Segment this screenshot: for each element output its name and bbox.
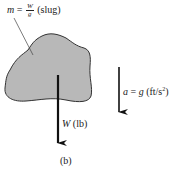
acceleration-symbol: a <box>123 86 128 97</box>
acceleration-equals: = <box>131 86 137 97</box>
acceleration-unit-suffix: ) <box>165 86 168 97</box>
figure-caption: (b) <box>60 156 72 166</box>
weight-label: W (lb) <box>62 119 87 129</box>
mass-fraction: W g <box>26 3 34 18</box>
rigid-body-shape <box>5 34 92 102</box>
weight-unit: (lb) <box>73 118 87 129</box>
mass-unit: (slug) <box>37 4 60 15</box>
mass-symbol: m <box>7 4 14 15</box>
mass-label: m = W g (slug) <box>7 3 61 18</box>
mass-equals: = <box>17 4 23 15</box>
acceleration-value: g <box>139 86 144 97</box>
mass-fraction-denominator: g <box>26 11 34 18</box>
weight-symbol: W <box>62 118 70 129</box>
mass-leader-line <box>14 18 33 55</box>
acceleration-unit-prefix: (ft/s <box>146 86 162 97</box>
acceleration-label: a = g (ft/s2) <box>123 86 169 97</box>
